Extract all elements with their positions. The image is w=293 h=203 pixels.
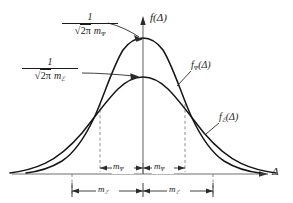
peak-amplitude-epsilon-denominator: √2π mℰ — [22, 69, 78, 82]
outer-span-right-label: mℰ — [169, 185, 179, 195]
radicand-epsilon: 2π — [40, 69, 51, 81]
outer-span-left-label: mℰ — [98, 185, 108, 195]
gaussian-distribution-figure: f(Δ) Δ 1 √2π mΨ 1 √2π mℰ fΨ(Δ) fℰ(Δ) mΨ … — [0, 0, 293, 203]
leader-line-epsilon-label — [206, 123, 219, 134]
peak-amplitude-label-epsilon: 1 √2π mℰ — [22, 56, 78, 82]
y-axis-label: f(Δ) — [150, 12, 167, 23]
outer-span-markers — [72, 183, 213, 197]
y-axis-arrowhead — [140, 16, 145, 25]
inner-span-left-sub: Ψ — [120, 166, 124, 172]
inner-span-right-sub: Ψ — [161, 166, 165, 172]
m-subscript-psi: Ψ — [101, 30, 105, 37]
inner-span-left-label: mΨ — [113, 162, 123, 172]
m-subscript-epsilon: ℰ — [61, 75, 65, 82]
peak-amplitude-label-psi: 1 √2π mΨ — [62, 11, 118, 37]
m-symbol-psi: m — [94, 25, 101, 36]
leader-line-psi-label — [177, 71, 191, 86]
outer-span-left-arrow-left — [72, 189, 79, 194]
curve-label-psi: fΨ(Δ) — [191, 60, 211, 71]
outer-span-right-arrow-left — [143, 189, 150, 194]
leader-arrow-epsilon — [82, 73, 134, 76]
inner-span-left-arrow-right — [136, 166, 143, 171]
curve-label-epsilon: fℰ(Δ) — [219, 112, 238, 123]
inner-span-right-arrow-right — [178, 166, 185, 171]
inner-span-right-label: mΨ — [154, 162, 164, 172]
outer-span-left-arrow-right — [136, 189, 143, 194]
peak-amplitude-epsilon-numerator: 1 — [22, 56, 78, 68]
outer-span-right-arrow-right — [206, 189, 213, 194]
x-axis-label: Δ — [272, 166, 278, 177]
outer-span-right-sub: ℰ — [176, 189, 179, 195]
radicand-psi: 2π — [80, 24, 91, 36]
peak-amplitude-psi-numerator: 1 — [62, 11, 118, 23]
outer-span-left-sub: ℰ — [105, 189, 108, 195]
curve-label-epsilon-arg: (Δ) — [226, 111, 239, 122]
curve-label-psi-arg: (Δ) — [198, 59, 211, 70]
figure-canvas — [0, 0, 293, 203]
peak-amplitude-psi-denominator: √2π mΨ — [62, 24, 118, 37]
inner-span-right-arrow-left — [143, 166, 150, 171]
inner-span-left-arrow-left — [100, 166, 107, 171]
